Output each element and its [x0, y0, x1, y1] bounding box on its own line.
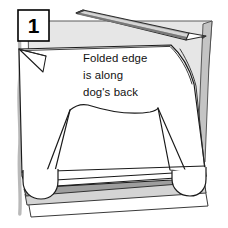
- instruction-line-1: Folded edge: [83, 52, 147, 64]
- dog-paw-right: [172, 167, 206, 196]
- dog-paw-left: [23, 169, 58, 199]
- figure-illustration: Folded edge is along dog's back 1: [0, 0, 228, 228]
- instruction-line-3: dog's back: [83, 86, 138, 98]
- instruction-line-2: is along: [83, 69, 123, 81]
- step-number-label: 1: [28, 14, 40, 37]
- left-margin-rule: [19, 18, 20, 214]
- craft-step-figure: Folded edge is along dog's back 1: [0, 0, 228, 228]
